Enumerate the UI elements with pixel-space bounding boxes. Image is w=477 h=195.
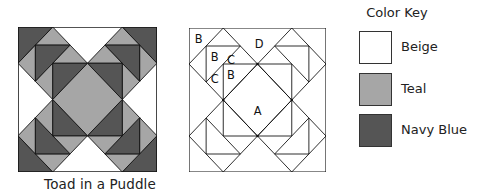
quilt-block-colored-svg (18, 27, 157, 172)
quilt-block-labeled: B B C D C B A (189, 28, 326, 172)
color-key-entry-beige: Beige (359, 31, 477, 64)
piece-label-c: C (211, 72, 219, 86)
color-key-title: Color Key (352, 5, 442, 20)
piece-label-d: D (255, 37, 264, 51)
color-key-entry-navy: Navy Blue (359, 114, 477, 147)
piece-label-b: B (227, 68, 235, 82)
piece-label-a: A (254, 104, 262, 118)
quilt-block-colored (18, 27, 157, 172)
piece-label-c: C (227, 53, 235, 67)
key-label-navy: Navy Blue (401, 122, 467, 137)
vertex-dot (256, 63, 258, 66)
vertex-dot (256, 135, 258, 138)
quilt-block-labeled-svg: B B C D C B A (189, 28, 326, 172)
vertex-dot (291, 99, 293, 102)
key-label-beige: Beige (401, 39, 438, 54)
block-caption: Toad in a Puddle (30, 176, 170, 192)
swatch-beige (359, 31, 392, 64)
key-label-teal: Teal (401, 81, 426, 96)
vertex-dot (222, 99, 224, 102)
swatch-teal (359, 73, 392, 106)
piece-label-b: B (195, 32, 203, 46)
swatch-navy (359, 114, 392, 147)
color-key-entry-teal: Teal (359, 73, 477, 106)
piece-label-b: B (211, 50, 219, 64)
